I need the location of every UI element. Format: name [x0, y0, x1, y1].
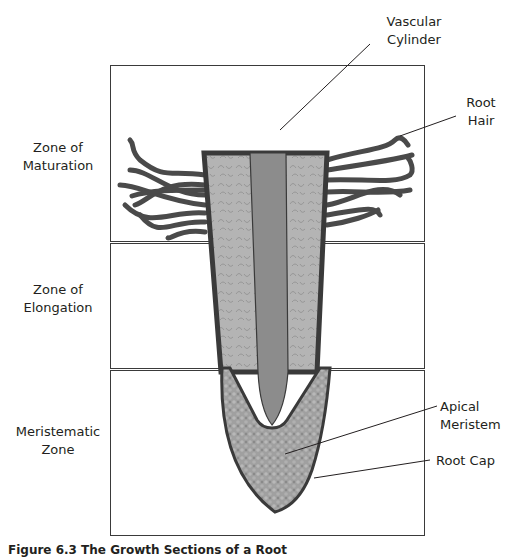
callout-line-root-hair: [400, 116, 456, 136]
callout-line-vascular: [280, 44, 370, 130]
label-root-cap: Root Cap: [436, 452, 516, 470]
root-hairs-right: [327, 138, 412, 225]
label-zone-elongation: Zone of Elongation: [3, 281, 113, 317]
label-zone-maturation: Zone of Maturation: [3, 139, 113, 175]
label-line: Maturation: [3, 157, 113, 175]
label-root-hair: Root Hair: [456, 94, 506, 130]
root-hairs-left: [120, 140, 205, 238]
label-line: Meristem: [440, 416, 510, 434]
label-line: Vascular: [374, 13, 454, 31]
root-diagram: [0, 0, 526, 557]
figure-caption: Figure 6.3 The Growth Sections of a Root: [8, 543, 287, 557]
label-line: Root Cap: [436, 452, 516, 470]
label-apical-meristem: Apical Meristem: [440, 398, 510, 434]
label-line: Hair: [456, 112, 506, 130]
label-line: Cylinder: [374, 31, 454, 49]
label-zone-meristematic: Meristematic Zone: [3, 423, 113, 459]
label-line: Zone: [3, 441, 113, 459]
label-line: Elongation: [3, 299, 113, 317]
label-line: Root: [456, 94, 506, 112]
callout-line-root-cap: [314, 460, 430, 478]
label-vascular-cylinder: Vascular Cylinder: [374, 13, 454, 49]
label-line: Apical: [440, 398, 510, 416]
label-line: Meristematic: [3, 423, 113, 441]
vascular-cylinder: [250, 153, 288, 425]
label-line: Zone of: [3, 281, 113, 299]
label-line: Zone of: [3, 139, 113, 157]
